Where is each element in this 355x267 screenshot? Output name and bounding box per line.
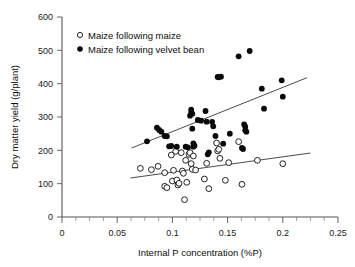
y-tick-label: 600	[38, 12, 53, 22]
data-point	[181, 170, 187, 176]
data-point	[184, 179, 190, 185]
data-point	[279, 77, 285, 83]
data-point	[189, 126, 195, 132]
x-tick-label: 0.05	[108, 228, 126, 238]
data-point	[137, 165, 143, 171]
data-point	[218, 74, 224, 80]
x-tick-label: 0.2	[277, 228, 290, 238]
data-point	[204, 119, 210, 125]
data-point	[164, 185, 170, 191]
data-point	[243, 129, 249, 135]
data-point	[171, 167, 177, 173]
filled-circle-icon	[77, 46, 83, 52]
data-point	[174, 144, 180, 150]
data-point	[149, 167, 155, 173]
y-tick-label: 100	[38, 179, 53, 189]
y-tick-label: 300	[38, 112, 53, 122]
y-tick-label: 200	[38, 146, 53, 156]
data-point	[203, 108, 209, 114]
data-point	[280, 161, 286, 167]
data-point	[204, 160, 210, 166]
data-point	[259, 86, 265, 92]
data-point	[213, 133, 219, 139]
data-point	[226, 160, 232, 166]
data-point	[206, 149, 212, 155]
y-tick-label: 500	[38, 46, 53, 56]
data-point	[214, 140, 220, 146]
data-point	[222, 177, 228, 183]
data-point	[255, 157, 261, 163]
data-point	[188, 161, 194, 167]
data-point	[164, 133, 170, 139]
data-point	[239, 181, 245, 187]
data-point	[192, 143, 198, 149]
data-point	[280, 94, 286, 100]
legend-label-0: Maize following maize	[88, 30, 181, 41]
x-tick-label: 0	[59, 228, 64, 238]
x-tick-label: 0.25	[329, 228, 347, 238]
legend-item-maize-following-maize: Maize following maize	[77, 30, 181, 41]
data-point	[220, 141, 226, 147]
data-point	[189, 111, 195, 117]
data-point	[162, 170, 168, 176]
data-point	[155, 163, 161, 169]
y-tick-label: 0	[48, 212, 53, 222]
data-point	[240, 146, 246, 152]
open-circle-icon	[77, 32, 82, 37]
scatter-plot-figure: 0100200300400500600 Dry matter yield (g/…	[0, 0, 355, 267]
data-point	[168, 143, 174, 149]
legend-item-maize-following-velvet-bean: Maize following velvet bean	[77, 44, 204, 55]
data-point	[202, 176, 208, 182]
data-point	[178, 150, 184, 156]
y-tick-label: 400	[38, 79, 53, 89]
data-point	[185, 144, 191, 150]
y-axis-title: Dry matter yield (g/plant)	[9, 65, 20, 169]
data-point	[176, 180, 182, 186]
data-point	[261, 106, 267, 112]
x-tick-label: 0.15	[219, 228, 237, 238]
data-point	[227, 131, 233, 137]
x-tick-label: 0.1	[166, 228, 179, 238]
data-point	[190, 153, 196, 159]
data-point	[206, 186, 212, 192]
x-axis-title: Internal P concentration (%P)	[138, 247, 262, 258]
legend-label-1: Maize following velvet bean	[88, 44, 204, 55]
data-point	[182, 197, 188, 203]
data-point	[183, 157, 189, 163]
data-point	[236, 139, 242, 145]
data-point	[210, 123, 216, 129]
data-point	[193, 167, 199, 173]
data-point	[217, 155, 223, 161]
data-point	[198, 118, 204, 124]
data-point	[144, 138, 150, 144]
plot-canvas: 0100200300400500600 Dry matter yield (g/…	[0, 0, 355, 267]
data-point	[236, 53, 242, 59]
data-point	[216, 146, 222, 152]
data-point	[247, 48, 253, 54]
